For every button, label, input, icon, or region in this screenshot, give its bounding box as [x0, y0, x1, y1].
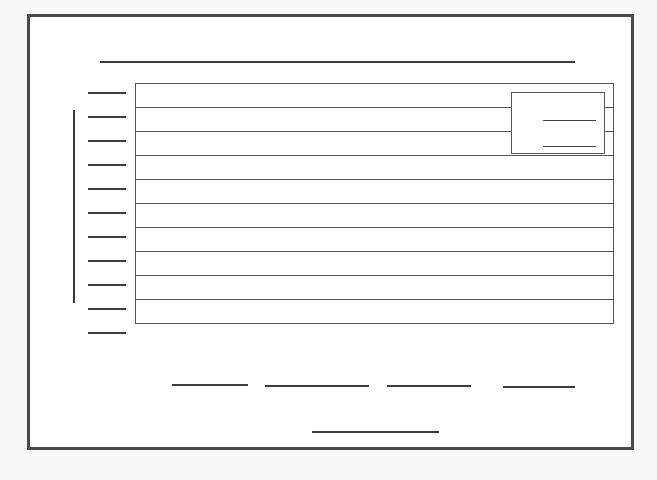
y-tick-label-placeholder: [88, 116, 126, 118]
y-tick-label-placeholder: [88, 188, 126, 190]
gridline: [135, 251, 613, 252]
x-tick-label-placeholder: [172, 384, 248, 386]
x-tick-label-placeholder: [265, 385, 369, 387]
y-tick-label-placeholder: [88, 260, 126, 262]
y-tick-label-placeholder: [88, 332, 126, 334]
y-axis-label-placeholder: [73, 110, 75, 303]
y-tick-label-placeholder: [88, 164, 126, 166]
y-tick-label-placeholder: [88, 236, 126, 238]
gridline: [135, 155, 613, 156]
legend-box: [511, 92, 605, 154]
x-tick-label-placeholder: [387, 385, 471, 387]
legend-entry-placeholder: [543, 146, 596, 147]
y-tick-label-placeholder: [88, 284, 126, 286]
gridline: [135, 179, 613, 180]
y-tick-label-placeholder: [88, 140, 126, 142]
gridline: [135, 275, 613, 276]
x-axis-title-placeholder: [312, 431, 439, 433]
y-tick-label-placeholder: [88, 212, 126, 214]
x-tick-label-placeholder: [503, 386, 575, 388]
y-tick-label-placeholder: [88, 92, 126, 94]
legend-entry-placeholder: [543, 120, 596, 121]
title-placeholder: [100, 61, 575, 63]
wireframe-description: Schematic chart layout with placeholder …: [0, 0, 1, 1]
gridline: [135, 299, 613, 300]
y-tick-label-placeholder: [88, 308, 126, 310]
gridline: [135, 203, 613, 204]
gridline: [135, 227, 613, 228]
